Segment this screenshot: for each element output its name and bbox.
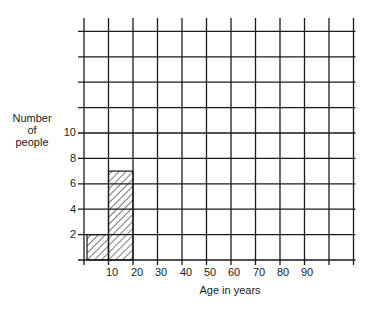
x-tick-40: 40: [174, 266, 198, 278]
bar-10-20: [109, 171, 134, 260]
x-tick-90: 90: [295, 266, 319, 278]
x-tick-60: 60: [222, 266, 246, 278]
x-tick-30: 30: [149, 266, 173, 278]
x-tick-70: 70: [247, 266, 271, 278]
chart-plot-area: [0, 0, 371, 311]
x-tick-50: 50: [198, 266, 222, 278]
x-tick-20: 20: [125, 266, 149, 278]
x-axis-label: Age in years: [160, 284, 300, 296]
x-tick-80: 80: [271, 266, 295, 278]
bar-0-10: [87, 235, 109, 260]
x-tick-10: 10: [100, 266, 124, 278]
